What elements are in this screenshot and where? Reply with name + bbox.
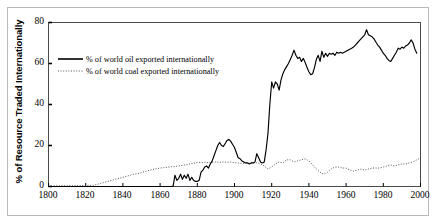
axis-frame: [49, 23, 421, 187]
axis-tick-marks: [49, 23, 421, 187]
series-oil-line: [49, 30, 417, 187]
chart-figure: % of Resource Traded Internationally 80 …: [0, 0, 437, 224]
series-coal-line: [49, 158, 421, 186]
plot-area-wrapper: % of Resource Traded Internationally 80 …: [0, 0, 437, 224]
plot-canvas: [0, 0, 437, 224]
legend-label-coal: % of world coal exported internationally: [86, 67, 219, 76]
legend-label-oil: % of world oil exported internationally: [86, 55, 214, 64]
